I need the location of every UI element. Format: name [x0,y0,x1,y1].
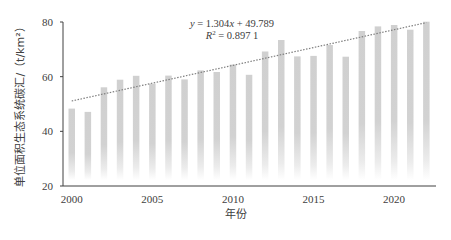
bar-2015 [310,56,317,180]
y-tick-label: 80 [42,16,54,28]
bar-2017 [343,57,350,180]
trend-equation: y = 1.304x + 49.789 [189,18,274,29]
bar-2004 [133,76,140,180]
bar-2021 [407,30,414,180]
bar-2007 [181,79,188,180]
x-tick-label: 2000 [61,193,84,205]
bar-2009 [214,72,221,180]
x-tick-label: 2015 [303,193,326,205]
bar-2006 [165,76,172,180]
bar-chart: 20406080 20002005201020152020 y = 1.304x… [0,0,451,240]
bar-2012 [262,52,269,181]
x-axis-ticks: 20002005201020152020 [61,193,406,205]
y-axis-title: 单位面积生态系统碳汇/（t/km²） [13,21,27,186]
bar-2019 [375,26,382,180]
bar-2001 [85,112,92,180]
bar-2005 [149,84,156,180]
y-tick-label: 40 [42,125,54,137]
bar-2008 [197,70,204,180]
y-axis-ticks: 20406080 [42,16,63,192]
x-tick-label: 2010 [222,193,245,205]
bar-2000 [69,109,76,180]
bar-2013 [278,40,285,180]
y-tick-label: 20 [42,180,54,192]
bar-2014 [294,56,301,180]
bar-2018 [359,31,366,180]
bar-2010 [230,65,237,180]
y-tick-label: 60 [42,71,54,83]
x-tick-label: 2005 [141,193,164,205]
bar-2022 [423,22,430,180]
bar-series [69,22,430,180]
bar-2002 [101,87,108,180]
bar-2011 [246,75,253,180]
bar-2003 [117,80,124,180]
x-tick-label: 2020 [383,193,406,205]
bar-2016 [326,45,333,180]
x-axis-title: 年份 [225,207,247,221]
r-squared-label: R2 = 0.897 1 [205,29,259,41]
bar-2020 [391,25,398,180]
